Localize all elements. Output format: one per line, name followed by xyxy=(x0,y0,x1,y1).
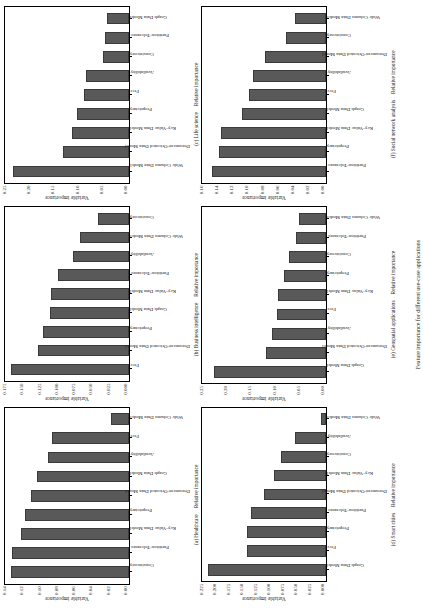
bar xyxy=(266,347,326,359)
x-tick-label: Consistency xyxy=(327,252,389,257)
bar-slot xyxy=(202,143,326,162)
y-tick-label: 0.050 xyxy=(293,584,298,595)
bar-slot xyxy=(202,124,326,143)
x-tick-label: Wide Column Data Model xyxy=(327,415,389,420)
x-tick-mark xyxy=(326,133,329,134)
x-tick-label: Availability xyxy=(130,70,192,75)
y-tick-label: 0.00 xyxy=(320,186,325,195)
bar-slot xyxy=(202,47,326,66)
bar xyxy=(48,452,129,464)
y-tick-label: 0.025 xyxy=(105,383,110,394)
y-tick-labels: 0.250.200.150.100.050.00 xyxy=(201,384,327,394)
y-tick-label: 0.025 xyxy=(306,584,311,595)
figure-caption: Feature importance for different use-cas… xyxy=(415,0,421,609)
bar-slot xyxy=(5,322,129,341)
x-tick-mark xyxy=(326,152,329,153)
bar xyxy=(299,213,326,225)
bar-slot xyxy=(202,286,326,305)
x-tick-mark xyxy=(326,295,329,296)
bar xyxy=(77,108,129,120)
bar-slot xyxy=(5,304,129,323)
y-tick-label: 0.02 xyxy=(304,186,309,195)
plot-box xyxy=(201,6,327,184)
bar-slot xyxy=(202,410,326,429)
x-tick-slot: Free xyxy=(130,82,192,100)
bar-slot xyxy=(5,9,129,28)
y-tick-label: 0.200 xyxy=(212,584,217,595)
bar xyxy=(265,51,326,63)
x-tick-mark xyxy=(129,171,132,172)
x-tick-slot: Key-Value Data Model xyxy=(130,520,192,538)
y-axis-title: Variable importance xyxy=(45,595,89,603)
y-tick-label: 0.150 xyxy=(239,584,244,595)
x-tick-label: Free xyxy=(327,89,389,94)
chart-panel-f: Variable importance0.160.140.120.100.080… xyxy=(201,6,396,202)
x-tick-mark xyxy=(129,533,132,534)
panel-title: (c) Life science xyxy=(193,112,199,146)
x-tick-slot: Availability xyxy=(327,319,389,337)
y-tick-label: 0.06 xyxy=(274,186,279,195)
x-axis-title: Relative importance xyxy=(390,251,396,295)
chart-panel-b: Variable importance0.1750.1500.1250.1000… xyxy=(4,206,199,402)
x-tick-mark xyxy=(326,531,329,532)
bar xyxy=(214,366,326,378)
bar xyxy=(107,13,130,25)
y-tick-label: 0.00 xyxy=(122,586,127,595)
bar-slot xyxy=(5,143,129,162)
bar-slot xyxy=(5,486,129,505)
x-tick-slot: Free xyxy=(327,538,389,556)
bar xyxy=(251,507,326,519)
x-tick-label: Key-Value Data Model xyxy=(327,471,389,476)
x-tick-mark xyxy=(326,333,329,334)
x-tick-label: Consistency xyxy=(130,215,192,220)
x-tick-slot: Free xyxy=(327,82,389,100)
bar-series xyxy=(202,207,326,383)
bar-slot xyxy=(202,9,326,28)
x-tick-slot: Document-Oriented Data Model xyxy=(130,483,192,501)
y-tick-label: 0.225 xyxy=(199,584,204,595)
x-tick-slot: Wide Column Data Model xyxy=(327,208,389,226)
panel-grid: Variable importance0.140.120.100.080.060… xyxy=(4,6,396,603)
bar-slot xyxy=(202,105,326,124)
bar-slot xyxy=(5,467,129,486)
x-tick-labels: FreeDocument-Oriented Data ModelPropriet… xyxy=(130,206,192,402)
panel-title: (a) Healthcare xyxy=(193,514,199,545)
x-tick-slot: Document-Oriented Data Model xyxy=(327,338,389,356)
x-tick-label: Proprietary xyxy=(130,107,192,112)
x-tick-label: Graph Data Model xyxy=(130,15,192,20)
panel-title: (d) Smart cities xyxy=(390,513,396,546)
y-tick-label: 0.12 xyxy=(19,586,24,595)
x-tick-label: Key-Value Data Model xyxy=(327,126,389,131)
bar-slot xyxy=(202,485,326,504)
x-tick-label: Wide Column Data Model xyxy=(327,215,389,220)
x-tick-label: Consistency xyxy=(130,563,192,568)
panel-footer: (f) Social network analysisRelative impo… xyxy=(390,6,396,202)
chart-panel-e: Variable importance0.250.200.150.100.050… xyxy=(201,206,396,402)
bar xyxy=(295,432,326,444)
x-tick-slot: Availability xyxy=(130,446,192,464)
bar-slot xyxy=(202,504,326,523)
y-tick-label: 0.25 xyxy=(2,186,7,195)
bar-slot xyxy=(202,28,326,47)
x-tick-label: Partition-Tolerance xyxy=(327,234,389,239)
bar xyxy=(31,490,129,502)
panel-footer: (d) Smart citiesRelative importance xyxy=(390,407,396,603)
plot-box xyxy=(4,206,130,382)
x-tick-label: Consistency xyxy=(130,52,192,57)
bar-slot xyxy=(202,542,326,561)
y-tick-labels: 0.140.120.100.080.060.040.020.00 xyxy=(4,585,130,595)
y-tick-label: 0.00 xyxy=(319,386,324,395)
x-tick-mark xyxy=(326,171,329,172)
bar xyxy=(25,509,129,521)
bar xyxy=(12,547,129,559)
bar-slot xyxy=(202,85,326,104)
x-tick-slot: Key-Value Data Model xyxy=(130,282,192,300)
x-tick-label: Graph Data Model xyxy=(130,471,192,476)
x-tick-slot: Graph Data Model xyxy=(130,301,192,319)
x-tick-label: Graph Data Model xyxy=(327,563,389,568)
x-tick-slot: Partition-Tolerance xyxy=(130,264,192,282)
bar xyxy=(278,289,326,301)
plot-box xyxy=(4,6,130,184)
x-tick-slot: Partition-Tolerance xyxy=(130,26,192,44)
x-tick-slot: Graph Data Model xyxy=(327,100,389,118)
